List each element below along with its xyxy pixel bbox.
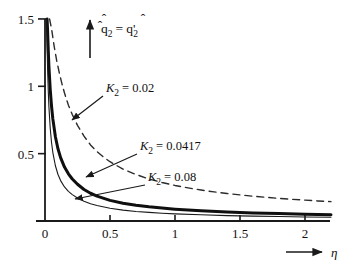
chart-figure: 00.511.5 0.511.52 ̂ q2=q'2 ̂ ̂ η [0,0,358,270]
x-axis-title: η [331,245,337,260]
y-axis-q1-sub: 2 [108,29,113,39]
kappa-subscript: 2 [148,146,153,156]
kappa-subscript: 2 [114,88,119,98]
y-axis-q2-sub: 2 [133,29,138,39]
kappa-value: = 0.02 [122,81,154,95]
y-tick-label: 0 [42,226,49,241]
y-tick-label: 0.5 [18,147,34,162]
chart-canvas: 00.511.5 0.511.52 ̂ q2=q'2 ̂ ̂ η [0,0,358,270]
x-tick-label: 1.5 [232,226,248,241]
x-tick-label: 0.5 [102,226,118,241]
y-tick-label: 1 [28,79,35,94]
x-tick-label: 2 [302,226,309,241]
x-tick-label: 1 [172,226,179,241]
kappa-value: = 0.08 [164,170,196,184]
y-axis-eq: = [116,21,124,36]
kappa-value: = 0.0417 [156,139,201,153]
y-tick-label: 1.5 [18,12,34,27]
kappa-subscript: 2 [156,177,161,187]
